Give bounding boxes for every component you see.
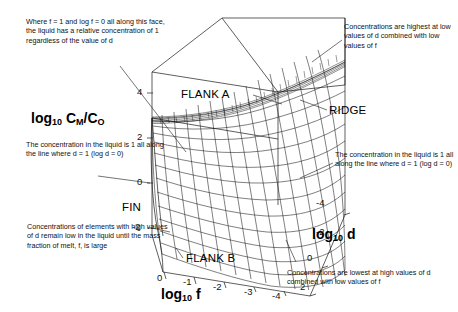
x-axis-var: f: [196, 286, 201, 302]
z-axis-c: C: [66, 110, 76, 126]
y-axis-var: d: [347, 226, 356, 242]
y-tick-0: 0: [307, 252, 312, 263]
annotation-top-left: Where f = 1 and log f = 0 all along this…: [26, 17, 176, 45]
x-axis-log: log: [161, 286, 182, 302]
z-axis-tail-sub: O: [98, 117, 105, 127]
region-label-fin: FIN: [122, 201, 141, 213]
z-axis-log: log: [31, 110, 52, 126]
z-axis-log-sub: 10: [52, 117, 62, 127]
x-tick-neg4: -4: [272, 290, 280, 301]
annotation-bottom-right: Concentrations are lowest at high values…: [287, 268, 437, 287]
region-label-flank-a: FLANK A: [181, 88, 230, 100]
x-tick-neg1: -1: [183, 276, 191, 287]
plot-box-wireframe: [152, 18, 345, 296]
y-tick-2: 2: [300, 281, 305, 292]
annotation-mid-left: The concentration in the liquid is 1 all…: [26, 140, 166, 159]
x-tick-neg3: -3: [244, 286, 252, 297]
y-tick-neg2: -2: [316, 226, 324, 237]
figure-canvas: Where f = 1 and log f = 0 all along this…: [0, 0, 458, 312]
x-tick-0: 0: [157, 272, 162, 283]
region-label-flank-b: FLANK B: [186, 252, 235, 264]
x-axis-label: log10 f: [161, 286, 201, 303]
y-axis-log-sub: 10: [333, 233, 343, 243]
z-tick-4: 4: [137, 86, 142, 97]
x-axis-log-sub: 10: [182, 293, 192, 303]
y-tick-neg4: -4: [316, 197, 324, 208]
annotation-mid-right: The concentration in the liquid is 1 all…: [335, 150, 455, 169]
annotation-top-right: Concentrations are highest at low values…: [344, 22, 456, 50]
annotation-bottom-left: Concentrations of elements with high val…: [27, 222, 171, 250]
x-tick-neg2: -2: [213, 281, 221, 292]
z-axis-label: log10 CM/CO: [31, 110, 105, 127]
region-label-ridge: RIDGE: [329, 104, 366, 116]
z-axis-tail: /C: [84, 110, 98, 126]
z-tick-2: 2: [137, 131, 142, 142]
z-tick-0: 0: [137, 176, 142, 187]
z-axis-c-sub: M: [76, 117, 84, 127]
z-tick-neg2: -2: [132, 221, 140, 232]
